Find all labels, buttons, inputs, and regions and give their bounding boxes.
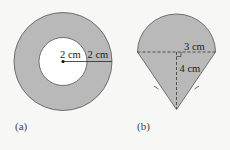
equal-tick-left [154,86,159,89]
cone-shape [138,14,216,110]
caption-b: (b) [137,120,150,133]
ring-width-label: 2 cm [88,49,109,60]
radius-label: 3 cm [184,41,205,52]
figure-b: 3 cm 4 cm (b) [137,14,216,133]
figure-stage: 2 cm 2 cm (a) 3 cm 4 cm (b) [0,0,230,150]
height-label: 4 cm [180,63,201,74]
equal-tick-right [195,86,200,89]
inner-radius-label: 2 cm [60,49,81,60]
figure-a: 2 cm 2 cm (a) [14,13,112,134]
center-dot [61,60,64,63]
caption-a: (a) [15,120,28,133]
diagram-canvas: 2 cm 2 cm (a) 3 cm 4 cm (b) [0,0,230,150]
